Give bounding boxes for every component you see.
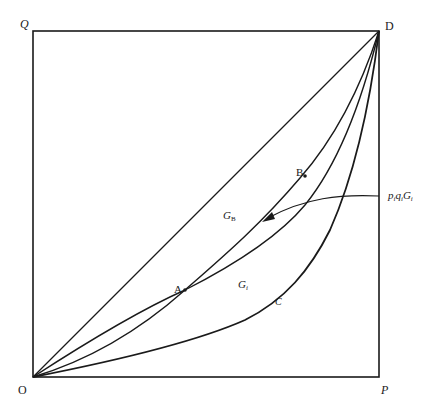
label-A: A xyxy=(174,283,182,295)
label-Q: Q xyxy=(20,17,29,31)
label-GB: GB xyxy=(223,209,236,223)
label-Gi: Gi xyxy=(238,278,248,292)
annotation-leader-line xyxy=(268,196,379,218)
label-C: C xyxy=(275,296,282,307)
label-B: B xyxy=(296,166,303,178)
label-D: D xyxy=(385,19,394,33)
point-B-marker xyxy=(303,174,307,178)
label-P: P xyxy=(380,383,389,397)
label-O: O xyxy=(18,383,27,397)
diagonal-line xyxy=(33,31,379,377)
label-pqG: piqiGi xyxy=(387,189,413,203)
point-A-marker xyxy=(183,288,187,292)
edgeworth-diagram: Q D O P A B GB Gi C piqiGi xyxy=(0,0,438,410)
